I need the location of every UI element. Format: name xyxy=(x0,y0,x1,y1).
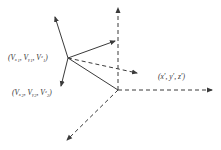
origin-axis-down-left-dashed-arrow xyxy=(67,90,118,140)
point1-label: (Vₓ₁, Vᵧ₁, Vᶻ₁) xyxy=(8,54,48,62)
point2-label: (Vₓ₂, Vᵧ₂, Vᶻ₂) xyxy=(12,89,52,97)
p1-axis-up-left-arrow xyxy=(55,17,68,58)
p1-projection-dashed-arrow xyxy=(68,58,137,73)
origin-label: (x′, y′, z′) xyxy=(158,73,185,81)
p1-to-origin-line xyxy=(68,58,118,90)
p1-axis-up-right-arrow xyxy=(68,41,115,58)
p1-axis-down-arrow xyxy=(61,58,68,86)
vector-diagram xyxy=(0,0,221,150)
